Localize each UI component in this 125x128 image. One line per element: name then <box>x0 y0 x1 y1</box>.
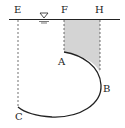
water-level-icon <box>39 13 49 23</box>
label-C: C <box>15 112 23 122</box>
label-B: B <box>103 84 110 94</box>
pressure-prism-shaded-region <box>64 20 100 72</box>
label-F: F <box>61 5 68 15</box>
label-A: A <box>58 57 65 67</box>
label-E: E <box>14 5 21 15</box>
label-H: H <box>95 5 104 15</box>
